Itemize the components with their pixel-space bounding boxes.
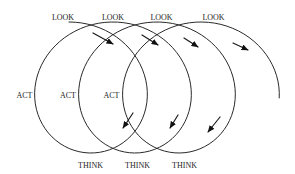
direction-arrow-icon <box>184 38 198 47</box>
direction-arrow-icon <box>170 115 178 128</box>
spiral-path <box>35 22 280 153</box>
act-label-2: ACT <box>60 91 76 100</box>
act-label-1: ACT <box>17 91 33 100</box>
think-label-2: THINK <box>125 161 150 170</box>
arrows-group <box>93 33 248 132</box>
diagram-canvas: LOOK LOOK LOOK LOOK ACT ACT ACT THINK TH… <box>0 0 295 174</box>
spiral-diagram: LOOK LOOK LOOK LOOK ACT ACT ACT THINK TH… <box>0 0 295 174</box>
look-label-3: LOOK <box>150 13 172 22</box>
act-label-3: ACT <box>104 91 120 100</box>
direction-arrow-icon <box>142 35 158 45</box>
direction-arrow-icon <box>233 43 248 50</box>
look-label-1: LOOK <box>52 13 74 22</box>
look-label-2: LOOK <box>102 13 124 22</box>
think-label-3: THINK <box>172 161 197 170</box>
look-label-4: LOOK <box>202 13 224 22</box>
direction-arrow-icon <box>208 117 220 132</box>
think-label-1: THINK <box>78 161 103 170</box>
